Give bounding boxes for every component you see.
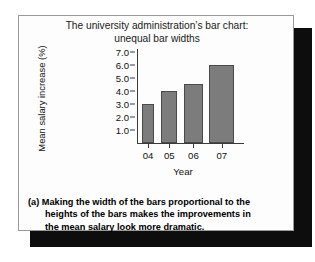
y-axis-tick-mark bbox=[130, 77, 135, 78]
y-axis-tick-label: 2.0 bbox=[103, 111, 129, 122]
figure-caption-line-1: (a) Making the width of the bars proport… bbox=[28, 196, 290, 208]
bar bbox=[161, 91, 177, 143]
y-axis-tick-label: 6.0 bbox=[103, 59, 129, 70]
x-axis-title: Year bbox=[103, 166, 263, 177]
x-axis-tick-label: 04 bbox=[143, 150, 154, 161]
y-axis-tick-mark bbox=[130, 129, 135, 130]
x-axis-tick-label: 07 bbox=[216, 150, 227, 161]
bar bbox=[209, 65, 234, 143]
figure-caption: (a) Making the width of the bars proport… bbox=[28, 196, 290, 233]
x-axis-tick-marks bbox=[138, 144, 244, 149]
y-axis-title: Mean salary increase (%) bbox=[36, 39, 47, 159]
bar bbox=[142, 104, 155, 143]
y-axis-tick-marks bbox=[130, 46, 137, 173]
x-axis-tick-label: 06 bbox=[188, 150, 199, 161]
y-axis-tick-labels: 1.02.03.04.05.06.07.0 bbox=[103, 46, 129, 173]
bar-series bbox=[138, 49, 244, 143]
y-axis-tick-mark bbox=[130, 90, 135, 91]
x-axis-tick-labels: 04050607 bbox=[138, 150, 244, 164]
x-axis-tick-mark bbox=[222, 144, 223, 148]
y-axis-tick-label: 7.0 bbox=[103, 46, 129, 57]
y-axis-tick-label: 3.0 bbox=[103, 98, 129, 109]
chart-title: The university administration’s bar char… bbox=[19, 20, 295, 45]
figure-caption-line-3: the mean salary look more dramatic. bbox=[28, 221, 290, 233]
y-axis-tick-mark bbox=[130, 103, 135, 104]
chart-plot-area: Mean salary increase (%) 1.02.03.04.05.0… bbox=[19, 46, 295, 178]
x-axis-tick-label: 05 bbox=[164, 150, 175, 161]
x-axis-tick-mark bbox=[148, 144, 149, 148]
y-axis-tick-mark bbox=[130, 116, 135, 117]
y-axis-tick-mark bbox=[130, 51, 135, 52]
bar bbox=[184, 84, 202, 143]
y-axis-tick-mark bbox=[130, 64, 135, 65]
chart-title-line-2: unequal bar widths bbox=[19, 33, 295, 46]
x-axis-tick-mark bbox=[193, 144, 194, 148]
y-axis-tick-label: 4.0 bbox=[103, 85, 129, 96]
figure-caption-line-2: heights of the bars makes the improvemen… bbox=[28, 208, 290, 220]
chart-title-line-1: The university administration’s bar char… bbox=[19, 20, 295, 33]
figure-panel: The university administration’s bar char… bbox=[18, 15, 294, 231]
y-axis-tick-label: 1.0 bbox=[103, 124, 129, 135]
x-axis-tick-mark bbox=[169, 144, 170, 148]
y-axis-tick-label: 5.0 bbox=[103, 72, 129, 83]
